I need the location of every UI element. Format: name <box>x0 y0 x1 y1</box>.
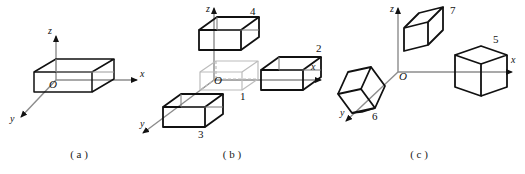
box-label-b-4: 4 <box>250 5 256 17</box>
box-b-4 <box>199 17 259 50</box>
box-c-5 <box>455 46 507 96</box>
box-label-b-1: 1 <box>240 90 246 102</box>
panel-c-axes <box>346 8 512 121</box>
box-c-7 <box>404 7 443 51</box>
origin-label-c: O <box>399 70 407 82</box>
box-a-1 <box>34 59 114 92</box>
axis-label-y-b: y <box>139 118 145 129</box>
box-label-c-5: 5 <box>493 33 499 45</box>
panel-a: z x y O <box>9 25 145 124</box>
caption-b: ( b ) <box>192 148 272 160</box>
caption-a: ( a ) <box>39 148 119 160</box>
axis-label-x-a: x <box>139 68 145 79</box>
box-label-b-3: 3 <box>198 128 204 140</box>
panel-a-axes <box>21 36 137 117</box>
figure-canvas: z x y O <box>0 0 525 174</box>
panel-b: z x y O 1 2 3 4 <box>139 3 322 140</box>
box-label-c-7: 7 <box>450 4 456 16</box>
axis-label-z-b: z <box>205 3 210 14</box>
panel-c: z x y O 5 6 7 <box>338 3 516 122</box>
axis-label-z-c: z <box>389 3 394 14</box>
origin-label-a: O <box>49 78 57 90</box>
box-label-c-6: 6 <box>372 110 378 122</box>
origin-label-b: O <box>214 74 222 86</box>
box-label-b-2: 2 <box>316 42 322 54</box>
axis-label-y-c: y <box>339 107 345 118</box>
axis-label-z-a: z <box>47 25 52 36</box>
axis-label-x-c: x <box>510 54 516 65</box>
box-b-1 <box>200 61 258 90</box>
axis-label-x-b: x <box>310 61 316 72</box>
caption-c: ( c ) <box>379 148 459 160</box>
axis-label-y-a: y <box>9 113 15 124</box>
